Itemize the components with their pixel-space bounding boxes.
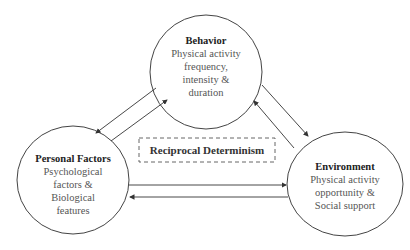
behavior-node: Behavior Physical activity frequency, in… [150, 34, 262, 99]
arrow-behavior-to-personal [96, 88, 156, 133]
reciprocal-determinism-label: Reciprocal Determinism [139, 138, 275, 162]
arrow-personal-to-behavior [111, 100, 167, 141]
personal-factors-line: Psychological [17, 165, 129, 178]
behavior-line: Physical activity [150, 47, 262, 60]
personal-factors-line: features [17, 204, 129, 217]
behavior-title: Behavior [150, 34, 262, 47]
personal-factors-line: Biological [17, 191, 129, 204]
environment-line: Physical activity [287, 173, 403, 186]
behavior-line: intensity & [150, 73, 262, 86]
personal-factors-node: Personal Factors Psychological factors &… [17, 152, 129, 217]
environment-title: Environment [287, 160, 403, 173]
arrow-behavior-to-environment [262, 85, 308, 136]
personal-factors-title: Personal Factors [17, 152, 129, 165]
behavior-line: duration [150, 86, 262, 99]
environment-node: Environment Physical activity opportunit… [287, 160, 403, 212]
behavior-line: frequency, [150, 60, 262, 73]
personal-factors-line: factors & [17, 178, 129, 191]
environment-line: opportunity & [287, 186, 403, 199]
environment-line: Social support [287, 199, 403, 212]
